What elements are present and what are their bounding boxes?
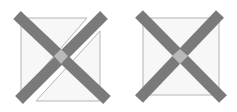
diagram-canvas bbox=[0, 0, 237, 112]
diagram-svg bbox=[0, 0, 237, 112]
whole-square-figure bbox=[139, 14, 223, 99]
split-square-figure bbox=[17, 15, 107, 101]
